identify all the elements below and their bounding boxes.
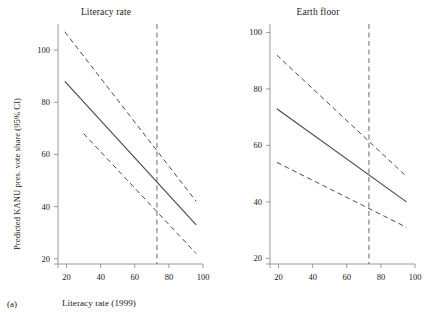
x-tick-label: 40: [96, 272, 105, 282]
series-line: [277, 162, 407, 227]
y-tick-label: 60: [42, 149, 51, 159]
y-tick-label: 80: [254, 84, 263, 94]
panel-a-letter: (a): [7, 299, 17, 309]
series-line: [84, 134, 197, 254]
figure-container: Literacy rate 20406080100 20406080100 Pr…: [0, 0, 425, 314]
panel-a-x-axis-label: Literacy rate (1999): [62, 298, 136, 308]
panel-a-plot: 20406080100 20406080100: [0, 0, 212, 314]
x-tick-label: 60: [343, 272, 352, 282]
y-tick-label: 100: [249, 27, 262, 37]
x-tick-label: 60: [131, 272, 140, 282]
x-tick-label: 20: [274, 272, 283, 282]
x-tick-label: 100: [197, 272, 210, 282]
series-line: [277, 55, 407, 176]
x-tick-label: 40: [308, 272, 317, 282]
y-tick-label: 40: [254, 197, 263, 207]
x-tick-label: 80: [377, 272, 386, 282]
panel-a: Literacy rate 20406080100 20406080100 Pr…: [0, 0, 212, 314]
y-tick-label: 60: [254, 140, 263, 150]
series-line: [277, 109, 407, 202]
x-tick-label: 80: [165, 272, 174, 282]
y-tick-label: 100: [37, 45, 50, 55]
y-tick-label: 20: [42, 254, 51, 264]
panel-b: Earth floor 20406080100 20406080100 Pred…: [212, 0, 424, 314]
series-line: [65, 32, 196, 202]
x-tick-label: 100: [409, 272, 422, 282]
series-line: [65, 81, 196, 224]
y-tick-label: 80: [42, 97, 51, 107]
y-tick-label: 40: [42, 202, 51, 212]
x-tick-label: 20: [62, 272, 71, 282]
y-tick-label: 20: [254, 253, 263, 263]
panel-b-plot: 20406080100 20406080100: [212, 0, 424, 314]
panel-a-y-axis-label: Predicted KANU pres. vote share (95% CI): [12, 98, 22, 250]
